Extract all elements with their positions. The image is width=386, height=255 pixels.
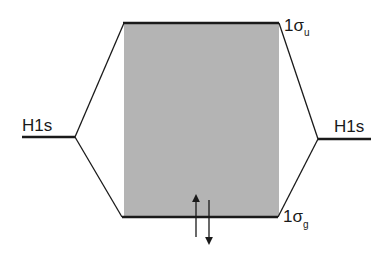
left-correlation-line-bottom <box>75 137 122 217</box>
bonding-label-sub: g <box>303 219 309 230</box>
right-correlation-line-bottom <box>278 139 318 217</box>
right-h1s-label: H1s <box>334 117 364 136</box>
antibonding-label-main: 1σ <box>284 16 304 35</box>
right-correlation-line-top <box>279 23 318 139</box>
mo-diagram: H1s H1s 1σu 1σg <box>0 0 386 255</box>
antibonding-label-sub: u <box>304 27 310 38</box>
antibonding-label: 1σu <box>284 16 310 38</box>
left-h1s-label: H1s <box>22 116 52 135</box>
left-correlation-line-top <box>75 23 124 137</box>
bonding-label-main: 1σ <box>283 207 303 226</box>
bonding-label: 1σg <box>283 207 309 230</box>
shaded-gap-region <box>124 23 279 217</box>
